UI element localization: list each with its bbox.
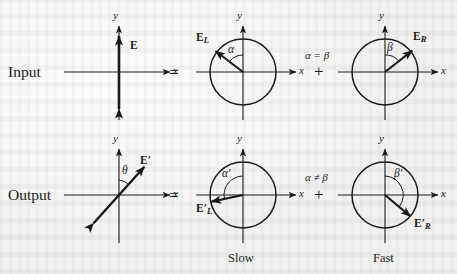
input-source-y-axis-label: y: [113, 10, 118, 21]
input-left-y-axis-label: y: [237, 10, 242, 21]
output-source-y-axis-label: y: [113, 133, 118, 144]
output-left-vector-subscript: L: [207, 206, 212, 216]
output-left-vector-symbol: E′: [196, 202, 207, 214]
input-left-vector-symbol: E: [196, 31, 204, 43]
output-left-x-axis-label: x: [299, 188, 304, 199]
output-left-circle-panel: [196, 149, 296, 243]
output-left-angle-label: α′: [222, 168, 231, 180]
output-right-speed-label: Fast: [373, 252, 394, 265]
input-left-angle-label: α: [228, 44, 234, 56]
input-right-vector-symbol: E: [413, 30, 421, 42]
output-right-vector-symbol: E′: [414, 217, 425, 229]
output-source-angle-label: θ: [122, 165, 128, 177]
input-left-circle-panel: [196, 26, 296, 120]
row-label-input: Input: [8, 64, 41, 80]
output-right-x-axis-label: x: [441, 188, 446, 199]
row-label-output: Output: [8, 187, 51, 203]
input-right-y-axis-label: y: [379, 10, 384, 21]
input-source-vector-label: E: [130, 40, 138, 52]
input-right-angle-label: β: [387, 42, 393, 54]
input-source-axes: [64, 26, 170, 120]
output-left-speed-label: Slow: [228, 252, 254, 265]
input-equals-sign: =: [169, 64, 179, 81]
output-left-vector-label: E′L: [196, 203, 212, 216]
output-right-y-axis-label: y: [379, 133, 384, 144]
input-left-vector-subscript: L: [204, 35, 209, 45]
input-left-x-axis-label: x: [299, 65, 304, 76]
input-right-vector-subscript: R: [421, 34, 427, 44]
input-right-vector-label: ER: [413, 31, 427, 44]
input-right-x-axis-label: x: [441, 65, 446, 76]
output-right-vector-subscript: R: [425, 221, 431, 231]
input-relation-label: α = β: [305, 50, 329, 61]
output-right-vector-label: E′R: [414, 218, 431, 231]
polarization-decomposition-figure: Input x y E = x y EL α α = β + x y ER β …: [0, 0, 457, 274]
output-source-vector-label: E′: [140, 155, 151, 167]
output-relation-label: α ≠ β: [305, 172, 328, 183]
output-plus-sign: +: [314, 186, 324, 203]
input-left-vector-label: EL: [196, 32, 209, 45]
output-left-y-axis-label: y: [237, 133, 242, 144]
output-equals-sign: =: [169, 187, 179, 204]
input-plus-sign: +: [314, 63, 324, 80]
output-right-angle-label: β′: [394, 168, 402, 180]
